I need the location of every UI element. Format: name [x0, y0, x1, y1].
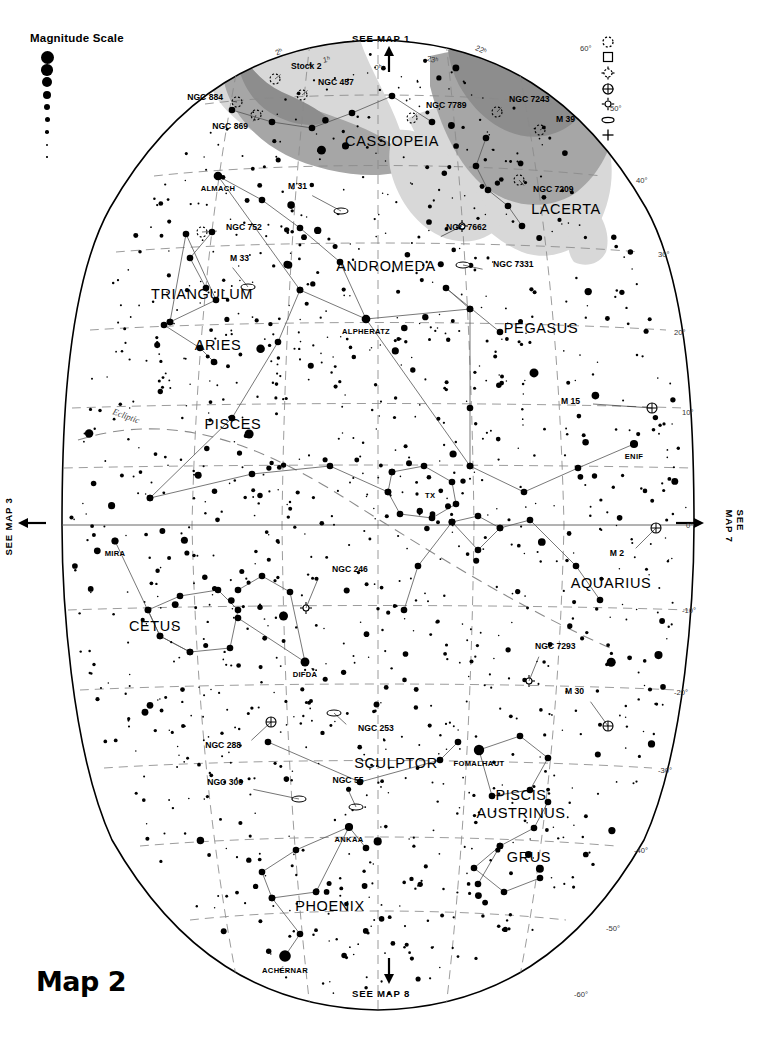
named-star-dot[interactable]: [345, 823, 353, 831]
star-dot: [192, 554, 196, 558]
named-star-dot[interactable]: [301, 658, 310, 667]
star-dot: [449, 479, 456, 486]
star-dot: [633, 782, 635, 784]
named-star-dot[interactable]: [474, 745, 484, 755]
star-dot: [357, 745, 362, 750]
star-dot: [667, 560, 669, 562]
star-dot: [562, 150, 568, 156]
dec-tick-label: -40°: [634, 846, 648, 855]
star-dot: [628, 249, 633, 254]
star-dot: [267, 558, 271, 562]
star-dot: [385, 514, 389, 518]
star-dot: [277, 465, 282, 470]
star-dot: [167, 273, 171, 277]
star-dot: [411, 357, 413, 359]
named-star-dot[interactable]: [630, 440, 638, 448]
star-dot: [164, 456, 167, 459]
star-dot: [449, 519, 456, 526]
star-dot: [159, 528, 165, 534]
star-dot: [301, 594, 303, 596]
star-dot: [160, 234, 164, 238]
star-dot: [380, 980, 382, 982]
star-dot: [584, 484, 586, 486]
star-dot: [616, 781, 618, 783]
named-star-dot[interactable]: [214, 172, 223, 181]
named-star-dot[interactable]: [415, 492, 418, 495]
star-dot: [318, 763, 320, 765]
star-dot: [460, 478, 465, 483]
star-dot: [348, 544, 350, 546]
star-dot: [464, 195, 466, 197]
star-dot: [548, 137, 551, 140]
named-star-dot[interactable]: [279, 950, 291, 962]
star-dot: [162, 491, 165, 494]
star-dot: [354, 458, 359, 463]
star-dot: [400, 476, 402, 478]
star-dot: [522, 383, 525, 386]
star-dot: [247, 712, 250, 715]
star-dot: [517, 733, 524, 740]
named-star-dot[interactable]: [362, 315, 371, 324]
star-dot: [148, 557, 151, 560]
star-dot: [473, 371, 476, 374]
star-dot: [496, 437, 501, 442]
star-dot: [395, 201, 397, 203]
star-dot: [473, 163, 480, 170]
star-dot: [268, 490, 270, 492]
star-dot: [475, 513, 482, 520]
star-dot: [293, 847, 300, 854]
star-dot: [235, 891, 239, 895]
star-dot: [396, 317, 398, 319]
star-dot: [424, 526, 430, 532]
star-dot: [230, 762, 232, 764]
star-dot: [436, 417, 440, 421]
star-dot: [482, 548, 484, 550]
star-dot: [506, 213, 508, 215]
star-dot: [187, 649, 194, 656]
star-dot: [629, 429, 631, 431]
star-dot: [471, 94, 473, 96]
star-dot: [482, 438, 484, 440]
constellation-name: PHOENIX: [295, 898, 364, 914]
star-dot: [524, 380, 526, 382]
star-dot: [167, 464, 169, 466]
star-dot: [546, 788, 550, 792]
star-dot: [286, 504, 288, 506]
star-name-label: MIRA: [105, 549, 126, 558]
star-dot: [553, 827, 555, 829]
star-dot: [362, 472, 364, 474]
dso-name-label: M 31: [288, 181, 307, 191]
star-dot: [403, 651, 409, 657]
star-dot: [330, 371, 332, 373]
star-dot: [206, 355, 210, 359]
star-dot: [268, 344, 271, 347]
star-dot: [209, 772, 211, 774]
star-dot: [405, 252, 411, 258]
star-dot: [316, 271, 319, 274]
dso-name-label: NGC 884: [187, 92, 223, 102]
star-dot: [468, 792, 470, 794]
star-dot: [202, 239, 204, 241]
star-dot: [306, 216, 308, 218]
star-dot: [157, 699, 159, 701]
star-dot: [533, 454, 535, 456]
star-dot: [442, 888, 445, 891]
dso-name-label: M 15: [561, 396, 580, 406]
star-dot: [281, 462, 286, 467]
star-dot: [250, 706, 253, 709]
star-dot: [379, 464, 383, 468]
star-dot: [542, 195, 547, 200]
star-dot: [543, 428, 546, 431]
star-dot: [467, 882, 471, 886]
star-dot: [104, 460, 106, 462]
star-dot: [160, 709, 164, 713]
star-dot: [479, 365, 481, 367]
named-star-dot[interactable]: [111, 537, 118, 544]
star-dot: [418, 882, 423, 887]
sky-chart[interactable]: Ecliptic ALMACHALPHERATZENIFMIRADIFDAFOM…: [0, 0, 757, 1051]
star-dot: [401, 736, 403, 738]
star-dot: [459, 662, 461, 664]
star-dot: [244, 902, 246, 904]
star-dot: [216, 384, 218, 386]
star-dot: [526, 607, 529, 610]
